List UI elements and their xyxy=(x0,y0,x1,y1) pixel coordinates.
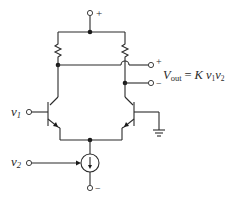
output-minus-wire: − xyxy=(123,78,162,89)
v2-input: v2 xyxy=(11,154,81,170)
ground-icon xyxy=(134,112,165,136)
current-source-icon: − xyxy=(81,154,101,194)
circuit-diagram: + + − Vout=Kv1v2 xyxy=(0,0,233,201)
top-rail xyxy=(58,30,125,35)
v2-label: v2 xyxy=(11,154,22,170)
npn-transistor-right-icon xyxy=(122,83,134,140)
emitter-tail xyxy=(60,138,122,154)
v1-input: v1 xyxy=(11,104,48,120)
bottom-minus-label: − xyxy=(95,183,101,194)
resistor-left-icon xyxy=(55,32,61,65)
output-plus-wire: + xyxy=(56,56,162,68)
resistor-right-icon xyxy=(122,32,128,83)
arrow-right-icon xyxy=(76,161,81,166)
top-plus-label: + xyxy=(96,7,102,19)
v1-label: v1 xyxy=(11,104,21,120)
npn-transistor-left-icon xyxy=(48,65,60,140)
output-minus-label: − xyxy=(156,78,162,89)
vout-equation: Vout=Kv1v2 xyxy=(163,68,225,83)
output-plus-label: + xyxy=(156,56,162,67)
top-supply-terminal: + xyxy=(87,7,102,32)
